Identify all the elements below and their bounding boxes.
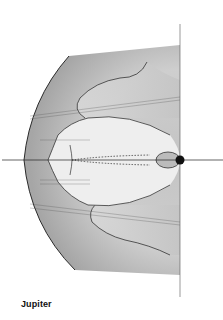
jupiter-planet — [176, 156, 185, 165]
magnetosphere-diagram — [0, 0, 223, 320]
figure-caption: Jupiter — [21, 299, 52, 309]
